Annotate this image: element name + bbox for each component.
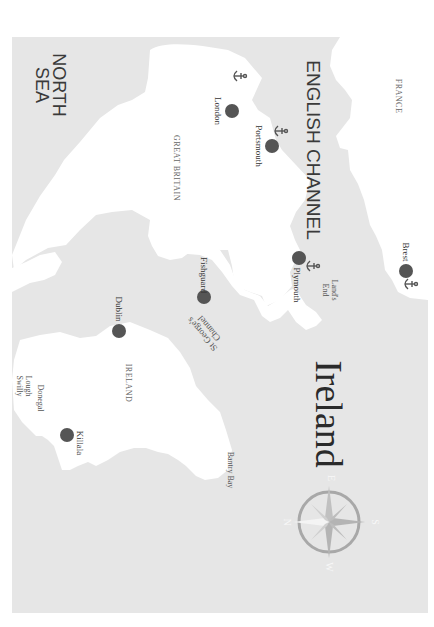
region-label-france: FRANCE: [394, 79, 403, 114]
lands-end-line2: End: [321, 280, 330, 301]
north-sea-line1: NORTH: [50, 53, 67, 117]
compass-letter-s: S: [370, 519, 381, 525]
city-label-london: London: [213, 97, 223, 125]
city-label-killala: Killala: [75, 431, 85, 456]
city-dot-killala: [60, 428, 74, 442]
sea-label-north-sea: NORTH SEA: [33, 53, 67, 117]
lands-end-line1: Land's: [330, 280, 339, 301]
anchor-icon-plymouth: [307, 261, 320, 271]
sea-label-bantry-bay: Bantry Bay: [226, 452, 235, 489]
lough-swilly-line1: Lough: [24, 376, 33, 397]
city-label-fishguard: Fishguard: [199, 257, 209, 293]
city-label-brest: Brest: [401, 243, 411, 262]
map-title: Ireland: [307, 360, 351, 468]
city-label-plymouth: Plymouth: [292, 267, 302, 302]
city-dot-portsmouth: [265, 139, 279, 153]
anchor-icon-portsmouth: [275, 126, 288, 136]
compass-letter-n: N: [282, 518, 293, 525]
city-label-portsmouth: Portsmouth: [254, 125, 264, 167]
city-label-dublin: Dublin: [114, 296, 124, 321]
sea-label-donegal: Donegal: [36, 384, 45, 411]
city-dot-plymouth: [292, 251, 306, 265]
compass-letter-w: W: [324, 562, 335, 571]
lough-swilly-line2: Swilly: [15, 376, 24, 397]
place-label-lands-end: Land's End: [321, 280, 339, 301]
region-label-ireland: IRELAND: [124, 364, 133, 403]
sea-label-english-channel: ENGLISH CHANNEL: [302, 60, 324, 240]
ireland-land: [12, 322, 232, 480]
city-dot-brest: [399, 264, 413, 278]
city-dot-london: [225, 104, 239, 118]
compass-rose-icon: [293, 486, 365, 558]
compass-letter-e: E: [326, 475, 337, 481]
city-dot-dublin: [112, 324, 126, 338]
region-label-great-britain: GREAT BRITAIN: [172, 135, 181, 201]
sea-label-lough-swilly: Lough Swilly: [15, 376, 33, 397]
north-sea-line2: SEA: [33, 53, 50, 117]
